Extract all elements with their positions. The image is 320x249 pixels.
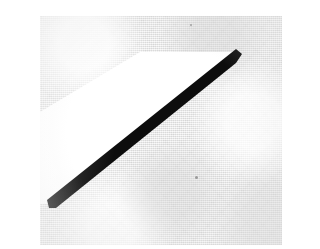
speck-upper-icon bbox=[190, 24, 192, 26]
black-diagonal-stroke bbox=[40, 16, 282, 245]
speck-lower-icon bbox=[195, 176, 198, 179]
scanned-image-figure: Scanned diagonal stroke on textured pape… bbox=[40, 16, 282, 245]
black-stroke-polygon bbox=[47, 49, 242, 208]
